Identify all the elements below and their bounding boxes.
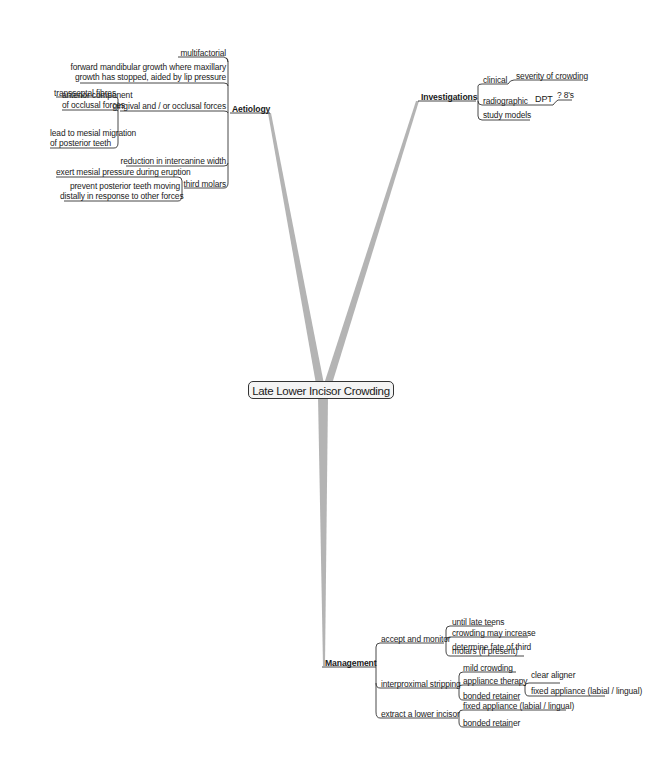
node-multifactorial[interactable]: multifactorial xyxy=(150,48,226,58)
node-bonded-retainer-ipr[interactable]: bonded retainer xyxy=(463,691,520,701)
node-gingival-occlusal-forces[interactable]: gingival and / or occlusal forces xyxy=(110,101,226,111)
branch-aetiology[interactable]: Aetiology xyxy=(232,104,270,114)
trunk-investigations xyxy=(324,101,419,384)
node-fixed-appliance-ipr[interactable]: fixed appliance (labial / lingual) xyxy=(531,686,642,696)
node-mesial-migration-line1[interactable]: lead to mesial migration xyxy=(50,128,136,138)
node-severity-of-crowding[interactable]: severity of crowding xyxy=(516,71,588,81)
node-question-8s[interactable]: ? 8's xyxy=(557,90,574,100)
node-forward-growth-line2[interactable]: growth has stopped, aided by lip pressur… xyxy=(70,72,226,82)
node-until-late-teens[interactable]: until late teens xyxy=(452,617,504,627)
node-mesial-migration-line2[interactable]: of posterior teeth xyxy=(50,138,111,148)
node-fixed-appliance-extract[interactable]: fixed appliance (labial / lingual) xyxy=(463,701,574,711)
node-radiographic[interactable]: radiographic xyxy=(483,96,528,106)
connector-lines xyxy=(0,0,670,759)
node-determine-fate-line2[interactable]: molars (if present) xyxy=(452,646,518,656)
central-topic[interactable]: Late Lower Incisor Crowding xyxy=(248,381,394,399)
node-clear-aligner[interactable]: clear aligner xyxy=(531,670,575,680)
node-anterior-component-line2[interactable]: of occlusal forces xyxy=(62,100,125,110)
branch-management[interactable]: Management xyxy=(325,658,377,668)
node-anterior-component-line1[interactable]: anterior component xyxy=(62,90,132,100)
node-accept-and-monitor[interactable]: accept and monitor xyxy=(381,634,450,644)
node-mild-crowding[interactable]: mild crowding xyxy=(463,663,513,673)
node-intercanine-width[interactable]: reduction in intercanine width xyxy=(110,156,226,166)
node-prevent-posterior-line1[interactable]: prevent posterior teeth moving xyxy=(60,181,180,191)
node-dpt[interactable]: DPT xyxy=(535,94,553,104)
node-study-models[interactable]: study models xyxy=(483,110,531,120)
node-exert-mesial-pressure[interactable]: exert mesial pressure during eruption xyxy=(56,167,191,177)
node-extract-lower-incisor[interactable]: extract a lower incisor xyxy=(381,709,460,719)
node-third-molars[interactable]: third molars xyxy=(180,179,226,189)
node-interproximal-stripping[interactable]: interproximal stripping xyxy=(381,679,461,689)
trunk-management xyxy=(318,396,328,666)
branch-investigations[interactable]: Investigations xyxy=(421,92,477,102)
node-prevent-posterior-line2[interactable]: distally in response to other forces xyxy=(60,191,180,201)
trunk-aetiology xyxy=(268,113,324,384)
node-bonded-retainer-extract[interactable]: bonded retainer xyxy=(463,718,520,728)
node-forward-growth-line1[interactable]: forward mandibular growth where maxillar… xyxy=(70,62,226,72)
node-appliance-therapy[interactable]: appliance therapy xyxy=(463,676,527,686)
node-crowding-may-increase[interactable]: crowding may increase xyxy=(452,628,536,638)
node-clinical[interactable]: clinical xyxy=(483,75,507,85)
